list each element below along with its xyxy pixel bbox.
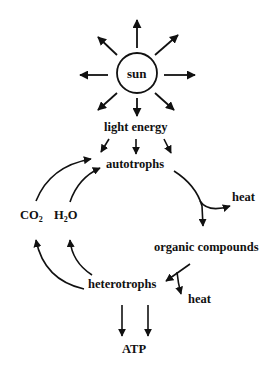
light-to-autotrophs-right: [164, 139, 171, 153]
co2-label: CO2: [20, 209, 43, 224]
light-to-autotrophs-left: [101, 139, 109, 152]
organic-compounds-label: organic compounds: [154, 241, 259, 254]
atp-label: ATP: [122, 343, 146, 356]
h2o-to-autotrophs: [70, 168, 100, 202]
ray-up-left: [98, 37, 117, 55]
heterotrophs-to-h2o: [70, 240, 92, 275]
autotrophs-label: autotrophs: [106, 158, 164, 171]
h2o-label: H2O: [54, 209, 77, 224]
co2-text: CO: [20, 208, 39, 222]
ray-down-left: [98, 93, 117, 110]
h2o-o: O: [68, 208, 78, 222]
autotrophs-to-heat: [200, 201, 230, 209]
diagram-canvas: [0, 0, 280, 374]
heat-label-2: heat: [188, 293, 211, 306]
light-energy-label: light energy: [104, 121, 168, 134]
heterotrophs-label: heterotrophs: [88, 278, 156, 291]
ray-down-right: [155, 93, 174, 110]
h2o-h: H: [54, 208, 64, 222]
sun-label: sun: [127, 67, 147, 80]
autotrophs-to-organic: [174, 171, 203, 226]
ray-up-right: [155, 35, 178, 55]
co2-subscript: 2: [39, 215, 43, 224]
heat-label-1: heat: [232, 191, 255, 204]
organic-to-heat: [177, 272, 181, 294]
heterotrophs-to-co2: [36, 240, 84, 289]
